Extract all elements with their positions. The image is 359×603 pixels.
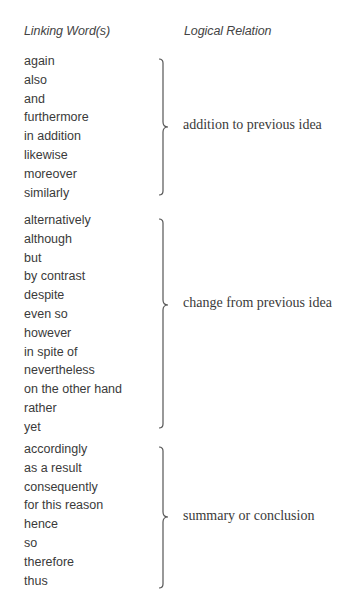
group-change: alternatively although but by contrast d…: [0, 211, 359, 436]
word-list-summary: accordingly as a result consequently for…: [24, 440, 103, 590]
list-item: despite: [24, 286, 122, 305]
column-header-linking-words: Linking Word(s): [24, 24, 110, 38]
list-item: accordingly: [24, 440, 103, 459]
right-brace-icon: [158, 218, 172, 429]
list-item: therefore: [24, 553, 103, 572]
group-summary: accordingly as a result consequently for…: [0, 440, 359, 595]
list-item: rather: [24, 399, 122, 418]
list-item: on the other hand: [24, 380, 122, 399]
list-item: even so: [24, 305, 122, 324]
right-brace-icon: [158, 446, 172, 589]
list-item: and: [24, 90, 89, 109]
list-item: however: [24, 324, 122, 343]
list-item: moreover: [24, 165, 89, 184]
list-item: but: [24, 249, 122, 268]
list-item: by contrast: [24, 267, 122, 286]
relation-label-summary: summary or conclusion: [183, 508, 314, 524]
list-item: again: [24, 52, 89, 71]
list-item: so: [24, 534, 103, 553]
list-item: in spite of: [24, 343, 122, 362]
list-item: hence: [24, 515, 103, 534]
list-item: similarly: [24, 184, 89, 203]
list-item: alternatively: [24, 211, 122, 230]
list-item: consequently: [24, 478, 103, 497]
list-item: as a result: [24, 459, 103, 478]
word-list-addition: again also and furthermore in addition l…: [24, 52, 89, 202]
list-item: yet: [24, 418, 122, 437]
right-brace-icon: [158, 58, 172, 196]
word-list-change: alternatively although but by contrast d…: [24, 211, 122, 437]
relation-label-addition: addition to previous idea: [183, 117, 322, 133]
relation-label-change: change from previous idea: [183, 295, 332, 311]
list-item: nevertheless: [24, 361, 122, 380]
list-item: also: [24, 71, 89, 90]
group-addition: again also and furthermore in addition l…: [0, 52, 359, 202]
list-item: for this reason: [24, 496, 103, 515]
column-header-logical-relation: Logical Relation: [184, 24, 271, 38]
list-item: although: [24, 230, 122, 249]
list-item: likewise: [24, 146, 89, 165]
list-item: furthermore: [24, 108, 89, 127]
list-item: in addition: [24, 127, 89, 146]
linking-words-table: Linking Word(s) Logical Relation again a…: [0, 0, 359, 603]
list-item: thus: [24, 572, 103, 591]
